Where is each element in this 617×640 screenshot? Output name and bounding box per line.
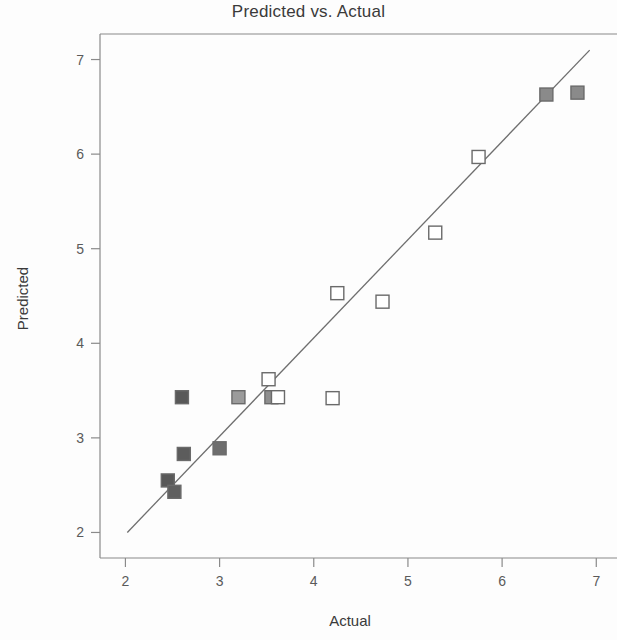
data-point-marker [271, 391, 284, 404]
data-point-marker [175, 391, 188, 404]
data-point-marker [262, 373, 275, 386]
data-point-marker [376, 295, 389, 308]
identity-fit-line [127, 50, 589, 532]
plot-area: 234567234567 [0, 0, 617, 640]
data-point-marker [540, 88, 553, 101]
data-point-marker [232, 391, 245, 404]
data-point-marker [429, 226, 442, 239]
data-markers-group [161, 86, 584, 498]
x-tick-label: 3 [216, 573, 224, 589]
x-tick-label: 5 [404, 573, 412, 589]
y-tick-label: 5 [76, 241, 84, 257]
data-point-marker [331, 287, 344, 300]
data-point-marker [177, 447, 190, 460]
x-tick-label: 6 [498, 573, 506, 589]
data-point-marker [571, 86, 584, 99]
chart-container: Predicted vs. Actual Predicted Actual 23… [0, 0, 617, 640]
y-tick-label: 7 [76, 52, 84, 68]
x-tick-label: 2 [122, 573, 130, 589]
x-tick-label: 4 [310, 573, 318, 589]
tick-labels-group: 234567234567 [76, 52, 600, 589]
data-point-marker [213, 442, 226, 455]
reference-line-group [127, 50, 589, 532]
x-tick-label: 7 [592, 573, 600, 589]
y-tick-label: 3 [76, 430, 84, 446]
y-tick-label: 2 [76, 524, 84, 540]
y-tick-label: 6 [76, 146, 84, 162]
data-point-marker [326, 392, 339, 405]
data-point-marker [472, 150, 485, 163]
y-tick-label: 4 [76, 335, 84, 351]
data-point-marker [168, 485, 181, 498]
